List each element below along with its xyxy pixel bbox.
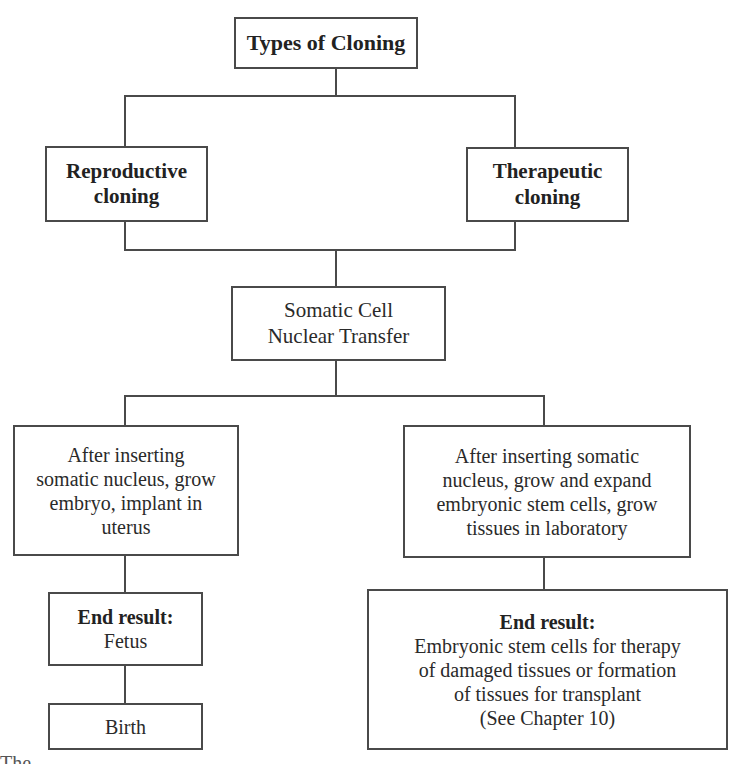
reproductive-process-line: somatic nucleus, grow — [36, 467, 215, 491]
connector-reproductive-down — [124, 221, 126, 251]
connector-to-left-process — [124, 395, 126, 426]
reproductive-line2: cloning — [94, 184, 159, 209]
connector-types-horizontal — [124, 95, 516, 97]
caption-text: The ... — [0, 752, 51, 764]
connector-to-right-process — [543, 395, 545, 426]
connector-to-therapeutic — [514, 95, 516, 147]
reproductive-end-result-box: End result: Fetus — [48, 592, 203, 666]
figure-caption-fragment: The ... — [0, 752, 749, 764]
connector-scnt-down — [335, 360, 337, 397]
connector-therapeutic-down — [514, 221, 516, 251]
reproductive-process-line: embryo, implant in — [50, 491, 203, 515]
therapeutic-process-line: tissues in laboratory — [466, 516, 627, 540]
scnt-line1: Somatic Cell — [284, 298, 393, 323]
title-text: Types of Cloning — [247, 30, 406, 56]
therapeutic-end-result-box: End result: Embryonic stem cells for the… — [367, 589, 728, 750]
end-result-line: Embryonic stem cells for therapy — [414, 634, 681, 658]
scnt-box: Somatic Cell Nuclear Transfer — [231, 286, 446, 361]
reproductive-process-box: After inserting somatic nucleus, grow em… — [13, 425, 239, 556]
therapeutic-cloning-box: Therapeutic cloning — [466, 147, 629, 222]
reproductive-cloning-box: Reproductive cloning — [45, 146, 208, 222]
therapeutic-line1: Therapeutic — [493, 159, 603, 184]
connector-right-process-down — [543, 557, 545, 590]
connector-to-reproductive — [124, 95, 126, 147]
reproductive-process-line: After inserting — [67, 443, 184, 467]
therapeutic-line2: cloning — [515, 185, 580, 210]
end-result-line: of damaged tissues or formation — [419, 658, 677, 682]
end-result-line: (See Chapter 10) — [480, 706, 616, 730]
end-result-label: End result: — [500, 610, 596, 634]
connector-title-down — [335, 68, 337, 97]
title-box: Types of Cloning — [234, 17, 418, 69]
connector-to-scnt — [335, 249, 337, 287]
connector-left-process-down — [124, 555, 126, 593]
end-result-line: of tissues for transplant — [454, 682, 641, 706]
therapeutic-process-line: embryonic stem cells, grow — [436, 492, 657, 516]
connector-merge-horizontal — [124, 249, 516, 251]
therapeutic-process-line: After inserting somatic — [455, 444, 639, 468]
therapeutic-process-box: After inserting somatic nucleus, grow an… — [403, 425, 691, 558]
end-result-value: Fetus — [104, 629, 147, 653]
end-result-label: End result: — [78, 605, 174, 629]
reproductive-process-line: uterus — [102, 515, 151, 539]
connector-fetus-to-birth — [124, 665, 126, 704]
therapeutic-process-line: nucleus, grow and expand — [443, 468, 652, 492]
birth-box: Birth — [48, 703, 203, 750]
reproductive-line1: Reproductive — [66, 159, 187, 184]
connector-branch-horizontal — [124, 395, 545, 397]
birth-text: Birth — [105, 715, 146, 739]
scnt-line2: Nuclear Transfer — [268, 324, 410, 349]
